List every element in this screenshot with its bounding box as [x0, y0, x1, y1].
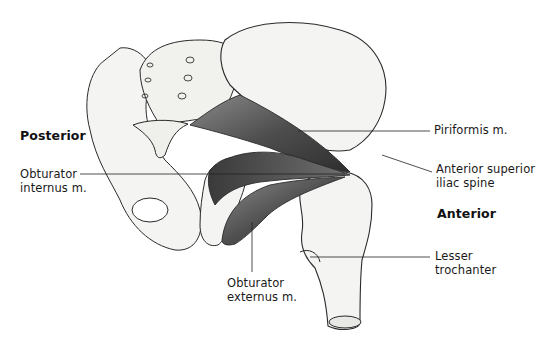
- obturator-externus-label-line2: externus m.: [227, 291, 297, 304]
- femur-shaft-cut: [329, 316, 361, 328]
- obturator-externus-label-line1: Obturator: [227, 277, 284, 290]
- asis-label-line2: iliac spine: [436, 177, 495, 190]
- obturator-foramen: [132, 198, 168, 222]
- anatomy-diagram: Posterior Anterior Piriformis m. Anterio…: [0, 0, 540, 345]
- asis-label-line1: Anterior superior: [436, 163, 535, 176]
- piriformis-label: Piriformis m.: [434, 124, 508, 137]
- anterior-label: Anterior: [437, 207, 496, 220]
- obturator-internus-label-line2: internus m.: [20, 182, 87, 195]
- lesser-trochanter-label-line2: trochanter: [435, 264, 496, 277]
- leader-asis: [382, 155, 432, 172]
- posterior-label: Posterior: [20, 129, 86, 142]
- lesser-trochanter-label-line1: Lesser: [435, 250, 473, 263]
- obturator-internus-label-line1: Obturator: [20, 168, 77, 181]
